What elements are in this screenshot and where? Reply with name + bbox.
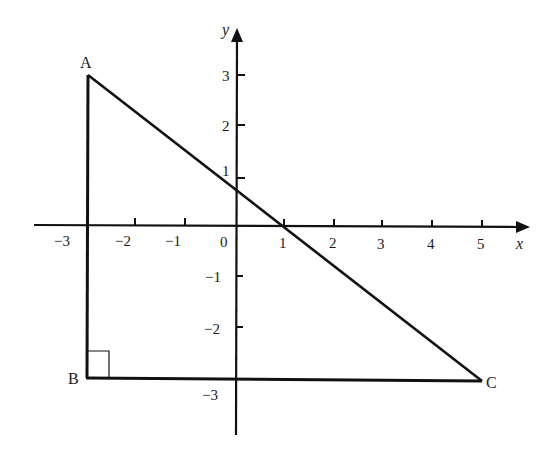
segment-bc <box>86 378 482 381</box>
x-tick-label: −2 <box>115 233 131 249</box>
vertex-label-a: A <box>80 54 92 71</box>
coordinate-diagram: −3 −2 −1 0 1 2 3 4 5 x 3 2 1 −1 −2 <box>0 0 550 453</box>
right-angle-marker <box>88 351 109 378</box>
x-tick-label: 3 <box>377 236 385 252</box>
y-axis-arrow-icon <box>231 28 243 42</box>
vertex-label-c: C <box>486 374 497 391</box>
segment-ab <box>87 75 88 378</box>
y-tick-label: −3 <box>202 387 218 403</box>
x-axis-label: x <box>515 235 523 252</box>
x-tick-label: 4 <box>427 236 435 252</box>
y-axis: 3 2 1 −1 −2 −3 y <box>202 21 245 435</box>
x-tick-label: 1 <box>279 235 287 251</box>
y-tick-label: −2 <box>204 321 220 337</box>
y-tick-label: 3 <box>222 68 230 84</box>
x-tick-label: 5 <box>477 236 485 252</box>
x-axis-arrow-icon <box>516 221 530 233</box>
y-tick-label: 1 <box>222 163 230 179</box>
origin-label: 0 <box>220 234 228 250</box>
x-tick-label: −3 <box>54 233 70 249</box>
y-tick-label: 2 <box>222 118 230 134</box>
x-tick-label: 2 <box>329 235 337 251</box>
segment-ac <box>88 75 482 381</box>
vertex-label-b: B <box>68 370 79 387</box>
x-tick-label: −1 <box>165 233 181 249</box>
y-tick-label: −1 <box>205 269 221 285</box>
triangle-abc <box>86 75 482 381</box>
x-axis: −3 −2 −1 0 1 2 3 4 5 x <box>34 218 530 252</box>
y-axis-label: y <box>220 21 230 39</box>
